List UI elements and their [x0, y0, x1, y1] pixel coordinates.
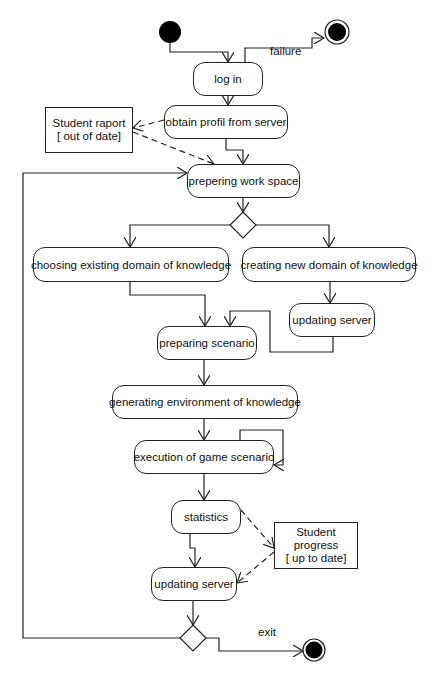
action-prepering-work-space: prepering work space	[187, 164, 300, 198]
action-obtain-profil: obtain profil from server	[164, 105, 288, 139]
action-label: statistics	[184, 511, 228, 523]
edge-statistics-updating	[190, 534, 195, 567]
action-label: choosing existing domain of knowledge	[31, 259, 231, 271]
guard-exit: exit	[258, 626, 276, 638]
edge-decision-choosing	[130, 225, 230, 247]
objflow-obtain-raport	[133, 120, 164, 128]
object-state: [ up to date]	[286, 552, 347, 565]
action-choosing-domain: choosing existing domain of knowledge	[33, 247, 229, 282]
action-creating-domain: creating new domain of knowledge	[242, 247, 416, 282]
activity-diagram: log in obtain profil from server preperi…	[0, 0, 436, 674]
edge-obtain-prepering	[226, 139, 243, 164]
action-label: generating environment of knowledge	[109, 396, 301, 408]
object-state: [ out of date]	[57, 130, 121, 143]
objflow-progress-updating	[237, 552, 274, 583]
action-preparing-scenario: preparing scenario	[157, 326, 257, 360]
edge-decision-exit	[206, 638, 303, 651]
action-label: execution of game scenario	[134, 451, 275, 463]
action-label: log in	[214, 73, 242, 85]
action-execution-scenario: execution of game scenario	[134, 440, 274, 474]
action-updating-server-2: updating server	[151, 567, 237, 601]
guard-failure: failure	[270, 45, 301, 57]
action-label: prepering work space	[189, 175, 299, 187]
action-label: creating new domain of knowledge	[240, 259, 417, 271]
decision-node-domain	[230, 212, 256, 238]
action-updating-server-1: updating server	[289, 303, 375, 337]
object-line: progress	[294, 539, 339, 552]
object-line: Student raport	[53, 117, 126, 130]
action-label: preparing scenario	[159, 337, 254, 349]
action-label: updating server	[154, 578, 233, 590]
object-line: Student	[296, 526, 336, 539]
edge-decision-creating	[256, 225, 329, 247]
object-student-progress: Student progress [ up to date]	[274, 522, 358, 569]
edge-choosing-preparing	[130, 282, 205, 326]
action-log-in: log in	[193, 62, 263, 96]
action-generating-environment: generating environment of knowledge	[112, 385, 298, 419]
action-statistics: statistics	[171, 500, 241, 534]
decision-node-exit	[180, 625, 206, 651]
object-student-raport: Student raport [ out of date]	[45, 107, 133, 153]
edge-start-login	[170, 40, 228, 62]
initial-node	[159, 21, 181, 43]
action-label: obtain profil from server	[166, 116, 287, 128]
action-label: updating server	[292, 314, 371, 326]
objflow-statistics-progress	[241, 510, 274, 548]
